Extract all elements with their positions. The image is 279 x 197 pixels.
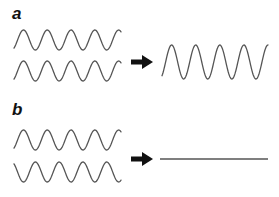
panel-a-wave-1 [14, 30, 121, 50]
panel-b-wave-2 [14, 162, 121, 182]
panel-a-arrow-icon [131, 55, 153, 69]
panel-b-arrow-icon [131, 152, 153, 166]
panel-a-wave-2 [14, 61, 121, 81]
panel-b-wave-1 [14, 130, 121, 150]
panel-a-result-wave [162, 45, 268, 79]
interference-diagram [0, 0, 279, 197]
